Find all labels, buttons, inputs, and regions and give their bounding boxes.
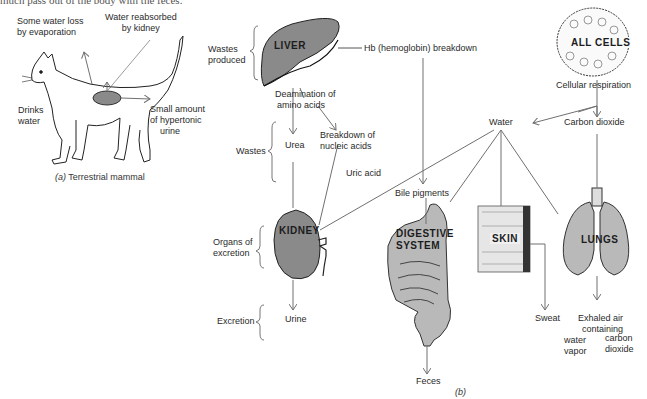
- node-feces: Feces: [416, 376, 441, 387]
- node-hb-breakdown: Hb (hemoglobin) breakdown: [364, 43, 477, 54]
- diagram-graphics: [0, 0, 647, 399]
- label-line: Organs of: [213, 237, 253, 248]
- label-line: dioxide: [605, 344, 634, 355]
- liver-shape: [261, 18, 339, 86]
- node-cellular-respiration: Cellular respiration: [556, 80, 631, 91]
- label-line: Small amount: [150, 104, 205, 115]
- organ-skin: SKIN: [490, 233, 520, 244]
- node-exhaled-air: Exhaled air containing: [578, 313, 623, 335]
- label-line: Breakdown of: [320, 130, 375, 141]
- label-reabsorbed: Water reabsorbed by kidney: [105, 12, 177, 34]
- label-line: Water reabsorbed: [105, 12, 177, 23]
- node-sweat: Sweat: [535, 313, 560, 324]
- label-line: water: [18, 116, 44, 127]
- label-line: Exhaled air: [578, 313, 623, 324]
- node-water-vapor: water vapor: [564, 335, 587, 357]
- node-carbon-dioxide: Carbon dioxide: [564, 117, 625, 128]
- label-line: Drinks: [18, 105, 44, 116]
- node-deamination: Deamination of amino acids: [275, 89, 336, 111]
- organ-lungs: LUNGS: [581, 234, 619, 245]
- label-line: SYSTEM: [396, 240, 454, 252]
- caption-a: (a) Terrestrial mammal: [55, 172, 145, 182]
- label-line: urine: [150, 126, 205, 137]
- node-nucleic-acids: Breakdown of nucleic acids: [320, 130, 375, 152]
- node-water: Water: [489, 117, 513, 128]
- label-drinks-water: Drinks water: [18, 105, 44, 127]
- label-line: DIGESTIVE: [396, 228, 454, 240]
- label-line: Deamination of: [275, 89, 336, 100]
- label-line: water: [564, 335, 587, 346]
- label-line: excretion: [213, 248, 253, 259]
- bracket-wastes-produced: Wastes produced: [208, 44, 246, 66]
- caption-b: (b): [455, 387, 466, 397]
- node-uric-acid: Uric acid: [346, 168, 381, 179]
- label-line: Some water loss: [17, 16, 84, 27]
- organ-digestive: DIGESTIVE SYSTEM: [396, 228, 454, 252]
- label-line: by evaporation: [17, 27, 84, 38]
- label-line: amino acids: [275, 100, 336, 111]
- label-line: of hypertonic: [150, 115, 205, 126]
- label-line: produced: [208, 55, 246, 66]
- label-line: Wastes: [208, 44, 246, 55]
- label-hypertonic-urine: Small amount of hypertonic urine: [150, 104, 205, 137]
- label-evaporation: Some water loss by evaporation: [17, 16, 84, 38]
- label-line: by kidney: [105, 23, 177, 34]
- label-line: vapor: [564, 346, 587, 357]
- label-line: nucleic acids: [320, 141, 375, 152]
- cat-kidney-shape: [93, 91, 121, 105]
- bracket-organs: Organs of excretion: [213, 237, 253, 259]
- node-urine: Urine: [285, 314, 307, 325]
- node-bile-pigments: Bile pigments: [395, 188, 449, 199]
- kidney-shape: [274, 210, 320, 279]
- caption-text: Terrestrial mammal: [68, 172, 145, 182]
- bracket-wastes: Wastes: [236, 146, 266, 157]
- node-carbon-dioxide-exhaled: carbon dioxide: [605, 333, 634, 355]
- lungs-shape: [563, 188, 628, 275]
- label-line: carbon: [605, 333, 634, 344]
- node-urea: Urea: [285, 140, 305, 151]
- caption-letter: (a): [55, 172, 66, 182]
- organ-all-cells: ALL CELLS: [570, 37, 631, 48]
- bracket-excretion: Excretion: [217, 316, 255, 327]
- digestive-shape: [388, 204, 451, 346]
- organ-kidney: KIDNEY: [279, 225, 320, 236]
- organ-liver: LIVER: [274, 40, 306, 51]
